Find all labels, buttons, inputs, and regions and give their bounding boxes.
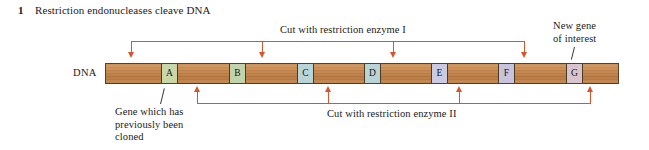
enzyme-two-arrow-shaft-3 (459, 91, 460, 104)
gene-box-a: A (161, 64, 178, 83)
page-title: Restriction endonucleases cleave DNA (35, 4, 211, 16)
dna-strand: A B C D E F G (105, 63, 619, 84)
gene-box-b: B (229, 64, 246, 83)
callout-new-gene: New gene of interest (553, 20, 596, 45)
gene-label-f: F (504, 68, 509, 78)
gene-label-a: A (166, 68, 173, 78)
enzyme-two-arrowhead-1 (194, 86, 200, 92)
figure-restriction-endonucleases: 1 Restriction endonucleases cleave DNA C… (0, 0, 649, 150)
gene-label-b: B (234, 68, 240, 78)
step-number: 1 (18, 4, 24, 16)
callout-cloned-gene: Gene which has previously been cloned (115, 106, 183, 144)
enzyme-two-bracket-rail (197, 103, 591, 104)
enzyme-two-label: Cut with restriction enzyme II (327, 108, 457, 119)
gene-label-g: G (571, 68, 578, 78)
enzyme-one-bracket-rail (131, 41, 525, 42)
enzyme-one-arrowhead-1 (128, 52, 134, 58)
gene-box-c: C (297, 64, 314, 83)
enzyme-two-arrowhead-4 (587, 86, 593, 92)
gene-label-e: E (437, 68, 443, 78)
enzyme-two-arrowhead-2 (325, 86, 331, 92)
dna-label: DNA (73, 67, 97, 78)
enzyme-two-arrow-shaft-2 (328, 91, 329, 104)
enzyme-one-label: Cut with restriction enzyme I (280, 24, 406, 35)
enzyme-one-arrowhead-4 (521, 52, 527, 58)
gene-box-d: D (364, 64, 381, 83)
enzyme-one-arrowhead-3 (390, 52, 396, 58)
gene-label-c: C (302, 68, 308, 78)
leader-line-cloned-gene (160, 88, 165, 104)
enzyme-two-arrowhead-3 (456, 86, 462, 92)
gene-box-e: E (431, 64, 448, 83)
gene-box-f: F (498, 64, 515, 83)
enzyme-two-arrow-shaft-4 (590, 91, 591, 104)
gene-label-d: D (369, 68, 376, 78)
leader-line-new-gene (571, 47, 575, 60)
enzyme-two-arrow-shaft-1 (197, 91, 198, 104)
gene-box-g: G (566, 64, 583, 83)
enzyme-one-arrowhead-2 (259, 52, 265, 58)
